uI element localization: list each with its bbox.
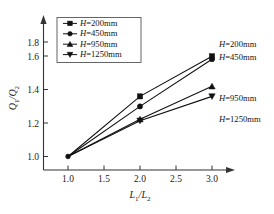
legend-label: H=450mm bbox=[79, 28, 118, 38]
y-tick-label: 1.6 bbox=[27, 52, 39, 62]
circle-marker bbox=[209, 57, 214, 62]
x-tick-label: 2.0 bbox=[134, 174, 146, 184]
circle-marker bbox=[68, 32, 73, 37]
y-tick-label: 1.2 bbox=[27, 119, 39, 129]
series-annotation-2: H=950mm bbox=[218, 93, 257, 103]
square-marker bbox=[137, 94, 142, 99]
series-annotation-1: H=450mm bbox=[218, 52, 257, 62]
x-tick-label: 1.5 bbox=[98, 174, 110, 184]
y-axis-title-sub2: 2 bbox=[13, 85, 21, 89]
legend-label: H=1250mm bbox=[79, 49, 122, 59]
y-tick-label: 1.0 bbox=[27, 152, 39, 162]
y-tick-label: 1.4 bbox=[27, 85, 39, 95]
square-marker bbox=[68, 21, 73, 26]
x-tick-label: 1.0 bbox=[62, 174, 74, 184]
x-tick-label: 2.5 bbox=[170, 174, 182, 184]
x-tick-label: 3.0 bbox=[206, 174, 218, 184]
legend-label: H=950mm bbox=[79, 39, 118, 49]
chart-container: 1.0 1.2 1.4 1.6 1.8 1.0 bbox=[0, 0, 274, 214]
line-chart: 1.0 1.2 1.4 1.6 1.8 1.0 bbox=[0, 0, 274, 214]
legend-label: H=200mm bbox=[79, 18, 118, 28]
circle-marker bbox=[137, 104, 142, 109]
series-annotation-3: H=1250mm bbox=[218, 114, 261, 124]
series-annotation-0: H=200mm bbox=[218, 39, 257, 49]
x-axis-title-sub2: 2 bbox=[147, 195, 151, 203]
y-tick-label: 1.8 bbox=[27, 38, 39, 48]
chart-legend: H=200mmH=450mmH=950mmH=1250mm bbox=[57, 18, 141, 63]
